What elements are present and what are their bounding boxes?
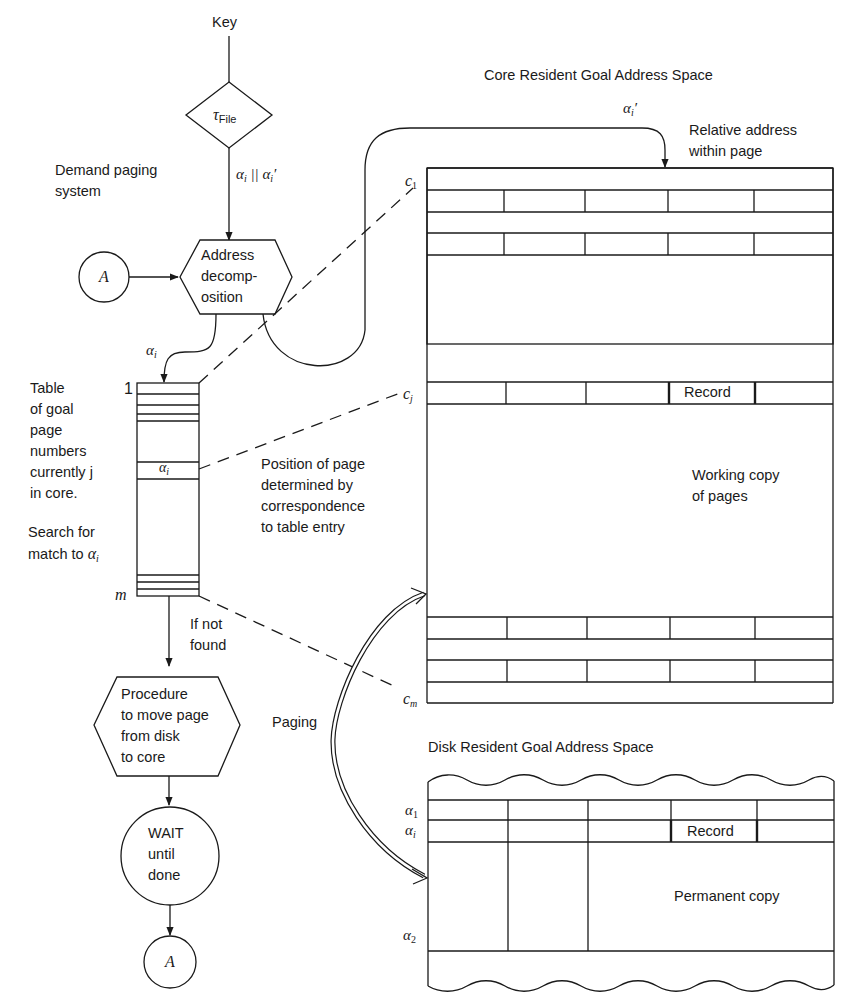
core-space-title: Core Resident Goal Address Space — [484, 65, 713, 86]
core-space-top — [427, 168, 833, 344]
row-label-alphai: αi — [405, 820, 416, 845]
relative-address-label: Relative address within page — [689, 120, 797, 162]
row-label-cj: cj — [403, 383, 413, 409]
table-edge-label: αi — [146, 340, 157, 365]
address-decomposition-label: Address decomp- osition — [201, 245, 257, 308]
if-not-found-label: If not found — [190, 614, 226, 656]
table-caption: Table of goal page numbers currently j i… — [30, 378, 93, 504]
row-label-alpha2: α2 — [403, 925, 416, 950]
wait-label: WAIT until done — [148, 823, 184, 886]
disk-record-label: Record — [687, 821, 734, 842]
table-bottom-index: m — [115, 584, 127, 605]
row-label-c1: c1 — [405, 170, 417, 196]
demand-paging-caption: Demand paging system — [55, 160, 157, 202]
key-edge-label: αi || αi′ — [236, 164, 276, 189]
key-label: Key — [212, 12, 237, 33]
offset-label: αi′ — [623, 98, 637, 123]
core-record-label: Record — [684, 382, 731, 403]
disk-space-title: Disk Resident Goal Address Space — [428, 737, 654, 758]
position-note: Position of page determined by correspon… — [261, 454, 365, 538]
row-label-cm: cm — [403, 688, 417, 714]
working-copy-label: Working copy of pages — [692, 465, 780, 507]
search-caption: Search for match to αi — [28, 522, 99, 569]
decision-label: τFile — [213, 104, 236, 130]
disk-space-frame — [428, 775, 834, 992]
procedure-label: Procedure to move page from disk to core — [121, 684, 209, 768]
table-top-index: 1 — [124, 378, 133, 399]
goal-page-table — [137, 383, 199, 596]
edge-decomp-to-core — [263, 128, 665, 366]
connector-a-bottom-label: A — [162, 951, 178, 972]
edge-decomp-to-table — [164, 314, 216, 382]
file-subscript: File — [219, 113, 237, 125]
paging-label: Paging — [272, 712, 317, 733]
connector-a-top-label: A — [96, 266, 112, 287]
core-space-frame — [427, 168, 833, 703]
table-entry-label: αi — [159, 457, 169, 482]
permanent-copy-label: Permanent copy — [674, 886, 780, 907]
